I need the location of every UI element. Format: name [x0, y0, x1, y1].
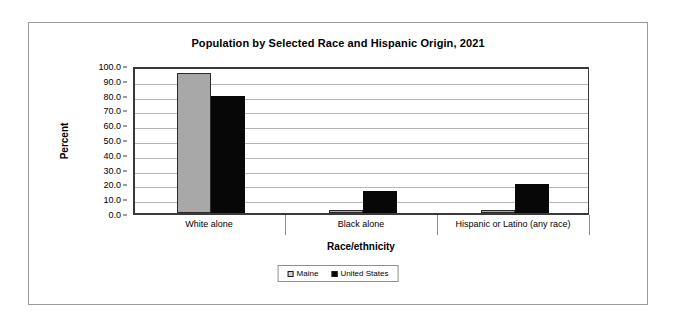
y-axis-tick-mark — [123, 111, 127, 112]
y-axis-tick-label: 90.0 — [103, 77, 121, 87]
legend-item-united-states[interactable]: United States — [331, 269, 388, 278]
y-axis-tick-mark — [123, 215, 127, 216]
plot-area — [133, 67, 589, 215]
legend-label: United States — [340, 269, 388, 278]
legend-swatch-icon — [331, 271, 337, 277]
x-axis-tick-labels: White aloneBlack aloneHispanic or Latino… — [133, 219, 589, 235]
bar-maine-0 — [177, 73, 211, 213]
y-axis-tick-label: 100.0 — [98, 62, 121, 72]
bar-united-states-1 — [363, 191, 397, 213]
y-axis-tick-label: 0.0 — [108, 210, 121, 220]
y-axis-tick-label: 10.0 — [103, 195, 121, 205]
bar-maine-2 — [481, 210, 515, 213]
legend-swatch-icon — [288, 271, 294, 277]
chart-legend: MaineUnited States — [278, 265, 399, 282]
x-axis-separator — [589, 215, 590, 235]
chart-frame: Population by Selected Race and Hispanic… — [28, 22, 648, 305]
y-axis-tick-label: 80.0 — [103, 92, 121, 102]
y-axis-tick-mark — [123, 185, 127, 186]
y-axis-tick-label: 70.0 — [103, 106, 121, 116]
y-axis-tick-label: 40.0 — [103, 151, 121, 161]
legend-label: Maine — [297, 269, 319, 278]
y-axis-tick-mark — [123, 141, 127, 142]
bars-layer — [135, 69, 588, 213]
y-axis-tick-mark — [123, 155, 127, 156]
x-axis-tick-label: Hispanic or Latino (any race) — [455, 219, 570, 229]
bar-united-states-0 — [211, 96, 245, 213]
y-axis-title-label: Percent — [59, 123, 70, 160]
chart-title: Population by Selected Race and Hispanic… — [29, 37, 647, 49]
bar-maine-1 — [329, 210, 363, 213]
y-axis-tick-labels: 100.090.080.070.060.050.040.030.020.010.… — [75, 67, 127, 215]
y-axis-tick-mark — [123, 96, 127, 97]
y-axis-tick-label: 50.0 — [103, 136, 121, 146]
x-axis-separator — [437, 215, 438, 235]
y-axis-tick-mark — [123, 200, 127, 201]
y-axis-tick-mark — [123, 81, 127, 82]
y-axis-tick-label: 30.0 — [103, 166, 121, 176]
y-axis-tick-mark — [123, 170, 127, 171]
y-axis-tick-label: 20.0 — [103, 180, 121, 190]
legend-item-maine[interactable]: Maine — [288, 269, 319, 278]
x-axis-separator — [285, 215, 286, 235]
x-axis-tick-label: Black alone — [338, 219, 385, 229]
y-axis-tick-label: 60.0 — [103, 121, 121, 131]
x-axis-title: Race/ethnicity — [133, 241, 589, 252]
y-axis-title: Percent — [55, 67, 73, 215]
bar-united-states-2 — [515, 184, 549, 213]
x-axis-tick-label: White alone — [185, 219, 233, 229]
y-axis-tick-mark — [123, 126, 127, 127]
y-axis-tick-mark — [123, 67, 127, 68]
